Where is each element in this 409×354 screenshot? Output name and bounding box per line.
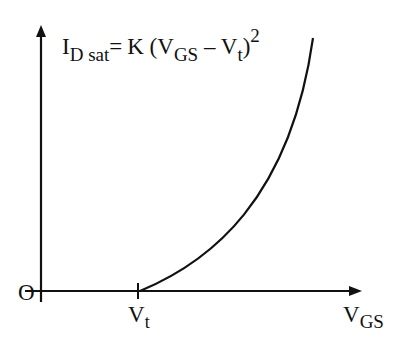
id-sat-curve: [140, 38, 313, 291]
x-axis: [25, 286, 362, 296]
origin-label: O: [18, 280, 35, 305]
x-axis-arrow-icon: [349, 286, 362, 296]
x-axis-label: VGS: [343, 302, 384, 332]
y-axis-arrow-icon: [36, 25, 46, 37]
vt-label: Vt: [128, 302, 150, 332]
formula-label: ID sat=K (VGS – Vt)2: [62, 25, 260, 65]
y-axis: [36, 25, 46, 302]
transfer-characteristic-chart: ID sat=K (VGS – Vt)2 O Vt VGS: [0, 0, 409, 354]
